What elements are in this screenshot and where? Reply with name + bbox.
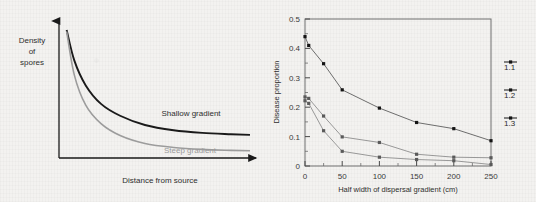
left-x-axis-label: Distance from source — [122, 176, 198, 185]
x-tick-label: 100 — [373, 172, 387, 181]
left-y-axis-label-line3: spores — [20, 58, 44, 67]
y-tick-label: 0.3 — [289, 74, 301, 83]
x-tick-label: 250 — [484, 172, 498, 181]
legend-label-1.2: 1.2 — [504, 91, 516, 100]
right-chart-legend: 1.11.21.3 — [504, 60, 517, 128]
series-line-1.1 — [305, 37, 491, 141]
right-series-group — [303, 35, 492, 166]
data-point-1.3 — [322, 129, 325, 132]
data-point-1.3 — [415, 158, 418, 161]
data-point-1.2 — [378, 141, 381, 144]
series-line-1.3 — [305, 101, 491, 165]
data-point-1.3 — [303, 99, 306, 102]
y-tick-label: 0.1 — [289, 133, 301, 142]
figure-page: Density of spores Distance from source S… — [0, 0, 536, 202]
data-point-1.3 — [378, 156, 381, 159]
data-point-1.3 — [452, 159, 455, 162]
right-plot-frame — [305, 19, 491, 166]
y-tick-label: 0.4 — [289, 44, 301, 53]
legend-label-1.1: 1.1 — [504, 63, 516, 72]
left-chart-svg: Density of spores Distance from source S… — [0, 0, 268, 202]
data-point-1.2 — [322, 114, 325, 117]
steep-gradient-curve — [67, 31, 250, 150]
right-chart-panel: 050100150200250 00.10.20.30.40.5 Half wi… — [268, 0, 536, 202]
series-line-1.2 — [305, 97, 491, 158]
data-point-1.3 — [489, 163, 492, 166]
left-chart-panel: Density of spores Distance from source S… — [0, 0, 268, 202]
shallow-gradient-curve — [67, 30, 250, 135]
x-tick-label: 150 — [410, 172, 424, 181]
x-tick-label: 50 — [338, 172, 347, 181]
data-point-1.2 — [489, 156, 492, 159]
right-x-tick-labels: 050100150200250 — [303, 172, 498, 181]
data-point-1.2 — [415, 153, 418, 156]
left-y-axis-label-line1: Density — [19, 36, 46, 45]
y-tick-label: 0.5 — [289, 15, 301, 24]
data-point-1.1 — [378, 106, 381, 109]
data-point-1.1 — [307, 44, 310, 47]
x-tick-label: 0 — [303, 172, 308, 181]
data-point-1.1 — [489, 139, 492, 142]
right-y-tick-labels: 00.10.20.30.40.5 — [289, 15, 301, 171]
data-point-1.1 — [341, 88, 344, 91]
data-point-1.3 — [307, 102, 310, 105]
shallow-gradient-label: Shallow gradient — [161, 109, 221, 118]
data-point-1.2 — [341, 135, 344, 138]
x-tick-label: 200 — [447, 172, 461, 181]
steep-gradient-label: Steep gradient — [164, 146, 217, 155]
right-y-axis-label: Disease proportion — [272, 61, 281, 124]
data-point-1.1 — [303, 35, 306, 38]
y-tick-label: 0.2 — [289, 103, 301, 112]
data-point-1.1 — [322, 62, 325, 65]
right-chart-svg: 050100150200250 00.10.20.30.40.5 Half wi… — [268, 0, 536, 202]
data-point-1.3 — [341, 150, 344, 153]
data-point-1.2 — [303, 95, 306, 98]
left-y-axis-label-line2: of — [29, 47, 36, 56]
y-tick-label: 0 — [296, 162, 301, 171]
data-point-1.2 — [452, 156, 455, 159]
data-point-1.2 — [307, 97, 310, 100]
right-y-ticks — [305, 19, 310, 166]
right-x-axis-label: Half width of dispersal gradient (cm) — [338, 185, 458, 194]
legend-label-1.3: 1.3 — [504, 119, 516, 128]
data-point-1.1 — [452, 127, 455, 130]
data-point-1.1 — [415, 121, 418, 124]
